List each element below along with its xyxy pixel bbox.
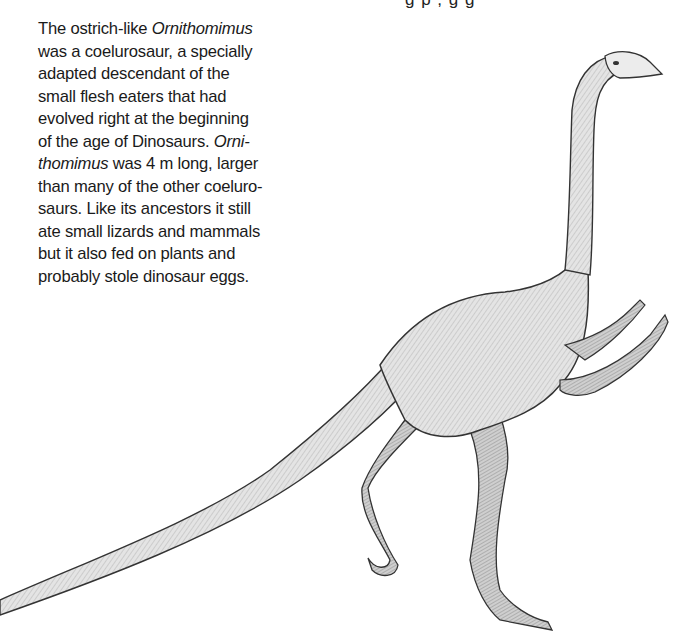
tail [0, 360, 420, 615]
head [605, 52, 662, 78]
standing-leg [470, 415, 552, 630]
ornithomimus-illustration [0, 0, 692, 634]
eye [613, 61, 619, 65]
raised-leg [362, 420, 420, 575]
neck [565, 56, 620, 275]
body [380, 255, 588, 437]
